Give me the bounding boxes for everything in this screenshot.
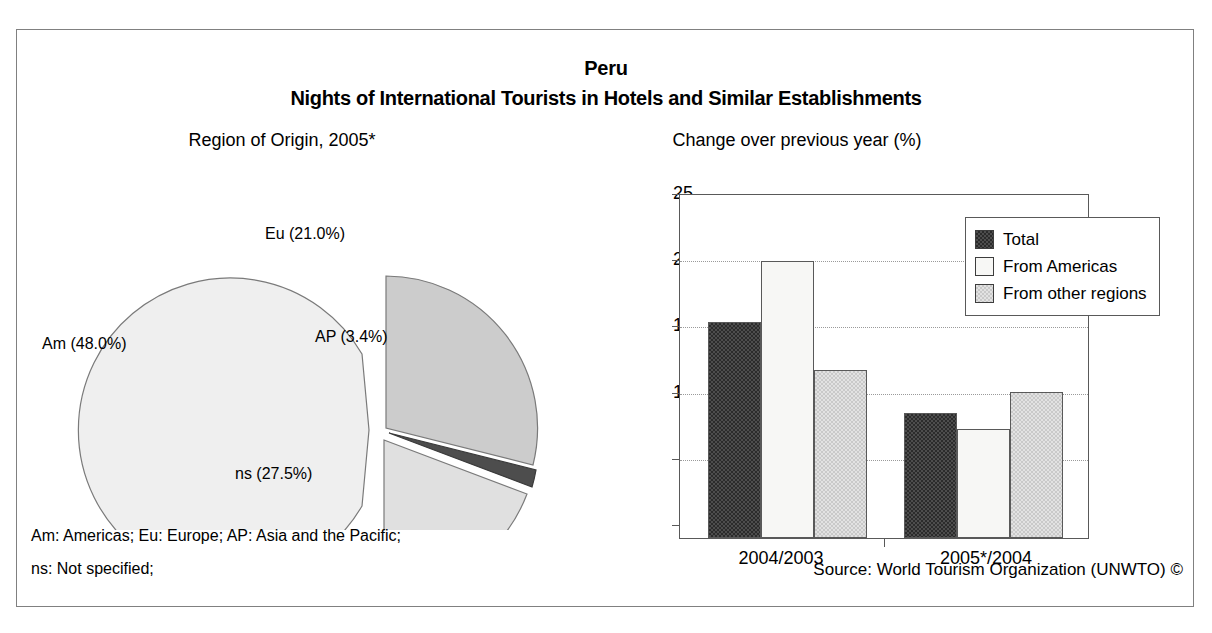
legend-swatch-from-americas <box>975 257 994 276</box>
pie-label-eu: Eu (21.0%) <box>265 225 345 243</box>
bar-chart-title: Change over previous year (%) <box>587 130 1007 151</box>
pie-label-ap: AP (3.4%) <box>315 328 388 346</box>
y-tick-mark-0 <box>672 525 679 526</box>
source-note: Source: World Tourism Organization (UNWT… <box>813 560 1183 580</box>
footnote-abbreviations: Am: Americas; Eu: Europe; AP: Asia and t… <box>31 527 401 545</box>
bar-2005-2004-from-americas <box>957 429 1010 538</box>
pie-slice-am <box>78 278 369 530</box>
y-tick-mark-20 <box>672 260 679 261</box>
legend-label-from-other-regions: From other regions <box>1003 284 1147 304</box>
bar-2004-2003-total <box>708 322 761 538</box>
bar-chart: 25 20 15 10 5 0 <box>617 180 1177 570</box>
pie-chart: Eu (21.0%) AP (3.4%) ns (27.5%) Am (48.0… <box>37 170 577 530</box>
y-tick-mark-15 <box>672 326 679 327</box>
page-title: Peru <box>17 57 1195 80</box>
bar-2004-2003-from-other-regions <box>814 370 867 538</box>
y-tick-mark-5 <box>672 459 679 460</box>
plot-area: Total From Americas From other regions <box>679 194 1089 539</box>
bar-2005-2004-total <box>904 413 957 538</box>
pie-chart-title: Region of Origin, 2005* <box>47 130 517 151</box>
chart-page: Peru Nights of International Tourists in… <box>0 0 1212 633</box>
legend-swatch-from-other-regions <box>975 284 994 303</box>
legend-item-from-americas[interactable]: From Americas <box>975 253 1147 280</box>
legend-item-from-other-regions[interactable]: From other regions <box>975 280 1147 307</box>
legend-swatch-total <box>975 230 994 249</box>
x-axis-divider <box>884 538 885 547</box>
legend-label-from-americas: From Americas <box>1003 257 1117 277</box>
y-tick-mark-10 <box>672 393 679 394</box>
pie-label-ns: ns (27.5%) <box>235 465 312 483</box>
legend-item-total[interactable]: Total <box>975 226 1147 253</box>
pie-label-am: Am (48.0%) <box>42 335 126 353</box>
chart-frame: Peru Nights of International Tourists in… <box>16 29 1194 607</box>
bar-2005-2004-from-other-regions <box>1010 392 1063 538</box>
bar-2004-2003-from-americas <box>761 261 814 538</box>
legend: Total From Americas From other regions <box>965 217 1160 316</box>
page-subtitle: Nights of International Tourists in Hote… <box>17 87 1195 110</box>
legend-label-total: Total <box>1003 230 1039 250</box>
pie-slice-eu <box>386 276 538 465</box>
footnote-ns: ns: Not specified; <box>31 560 154 578</box>
y-tick-mark-25 <box>672 194 679 195</box>
